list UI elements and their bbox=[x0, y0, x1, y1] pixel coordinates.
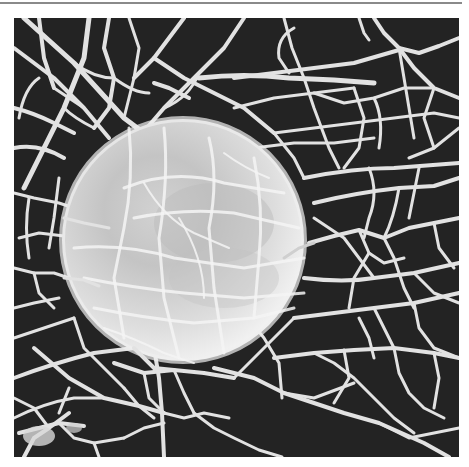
sphere-particle bbox=[62, 119, 304, 361]
top-rule bbox=[0, 2, 462, 4]
micrograph-svg bbox=[14, 18, 459, 457]
micrograph bbox=[14, 18, 459, 457]
